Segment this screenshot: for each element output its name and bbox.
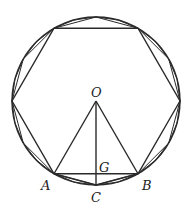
label-o: O	[91, 85, 102, 100]
label-c: C	[91, 190, 101, 205]
segment-oa	[54, 101, 96, 174]
label-a: A	[40, 178, 50, 193]
label-b: B	[141, 178, 152, 193]
segment-bc	[96, 174, 138, 185]
label-g: G	[99, 160, 109, 175]
segment-ac	[54, 174, 96, 185]
geometry-diagram: O A B C G	[0, 0, 193, 212]
